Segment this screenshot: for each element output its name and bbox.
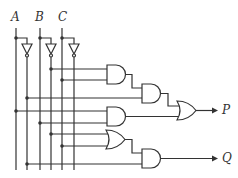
- or-gate-p: [177, 101, 196, 120]
- not-gate-b: [46, 44, 56, 57]
- and-gate-2: [142, 84, 161, 103]
- input-buses: [14, 28, 74, 170]
- arrow-p-icon: [212, 108, 218, 114]
- input-label-a: A: [10, 10, 20, 24]
- input-label-c: C: [58, 10, 67, 24]
- logic-circuit: A B C: [0, 0, 238, 178]
- or-gate-2: [106, 130, 125, 149]
- arrow-q-icon: [212, 156, 218, 162]
- output-label-p: P: [221, 103, 231, 117]
- output-label-q: Q: [222, 151, 232, 165]
- input-label-b: B: [34, 10, 44, 24]
- not-gate-c: [69, 44, 79, 57]
- not-gate-a: [22, 44, 32, 57]
- and-gate-q: [142, 149, 160, 168]
- and-gate-3: [107, 107, 126, 126]
- and-gate-1: [107, 65, 125, 84]
